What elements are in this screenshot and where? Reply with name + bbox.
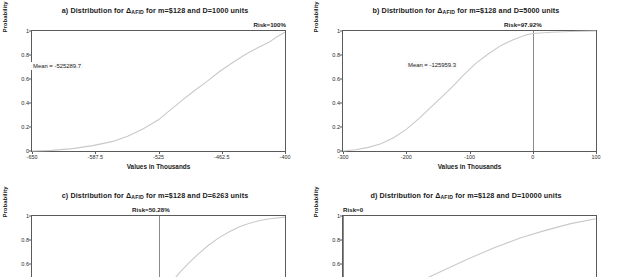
panel-a-title: a) Distribution for ΔAFID for m=$128 and… [0,6,310,15]
panel-b-xtick-0: -300 [338,154,349,160]
delta-subscript: AFID [443,9,456,15]
panel-c-title: c) Distribution for ΔAFID for m=$128 and… [0,191,310,200]
panel-a-ylabel: Probability [2,0,8,52]
delta-subscript: AFID [131,9,144,15]
panel-d-ytick-5: 1 [337,213,340,219]
panel-a-ytick-1: 0.2 [21,124,29,130]
panel-d-curve [343,216,596,277]
panel-d-title-prefix: d) Distribution for [370,191,435,200]
panel-b-title-prefix: b) Distribution for [373,6,438,15]
figure-panel-grid: a) Distribution for ΔAFID for m=$128 and… [0,0,621,277]
panel-d-plot-area: 1 0.8 0.6 0.4 [342,215,597,277]
panel-a-xtick-4: -400 [280,154,291,160]
panel-c-title-prefix: c) Distribution for [62,191,126,200]
panel-a-xtick-2: -525 [153,154,164,160]
chart-panel-c: c) Distribution for ΔAFID for m=$128 and… [0,185,310,277]
panel-b-xtick-1: -200 [401,154,412,160]
panel-a-xtick-3: -462.5 [214,154,229,160]
panel-b-xtick-4: 100 [592,154,601,160]
panel-d-risk-label: Risk=0 [343,206,363,213]
panel-b-ytick-4: 0.8 [332,52,340,58]
delta-symbol: Δ [437,6,442,15]
panel-c-title-suffix: for m=$128 and D=6263 units [144,191,248,200]
panel-b-xtick-3: 0 [531,154,534,160]
panel-d-title-suffix: for m=$128 and D=10000 units [453,191,561,200]
panel-c-plot-area: 1 0.8 0.6 0.4 [31,215,286,277]
panel-b-ytick-2: 0.4 [332,100,340,106]
panel-a-ytick-3: 0.6 [21,76,29,82]
panel-d-title: d) Distribution for ΔAFID for m=$128 and… [311,191,621,200]
panel-d-ytick-4: 0.8 [332,237,340,243]
panel-c-ylabel: Probability [2,167,8,237]
panel-a-ytick-4: 0.8 [21,52,29,58]
panel-b-plot-area: 0 0.2 0.4 0.6 0.8 1 -300 -200 -100 0 100 [342,30,597,152]
panel-b-ylabel: Probability [313,0,319,52]
panel-b-ytick-1: 0.2 [332,124,340,130]
panel-d-ytick-3: 0.6 [332,261,340,267]
panel-a-xtick-1: -587.5 [88,154,103,160]
panel-a-xtick-0: -650 [27,154,38,160]
panel-a-risk-label: Risk=100% [253,21,286,28]
panel-a-xlabel: Values in Thousands [31,163,286,170]
panel-a-curve [32,31,285,151]
panel-c-ytick-4: 0.8 [21,237,29,243]
panel-c-ytick-5: 1 [26,213,29,219]
panel-b-title-suffix: for m=$128 and D=5000 units [455,6,559,15]
panel-b-xlabel: Values in Thousands [342,163,597,170]
panel-b-ytick-3: 0.6 [332,76,340,82]
panel-a-title-prefix: a) Distribution for [62,6,126,15]
panel-d-ylabel: Probability [313,167,319,237]
panel-b-risk-label: Risk=97.92% [504,21,542,28]
panel-b-ytick-5: 1 [337,28,340,34]
panel-b-curve [343,31,596,151]
panel-b-mean-label: Mean = -125959.3 [406,61,458,69]
panel-a-title-suffix: for m=$128 and D=1000 units [144,6,248,15]
chart-panel-d: d) Distribution for ΔAFID for m=$128 and… [311,185,621,277]
panel-b-xtick-2: -100 [464,154,475,160]
panel-c-risk-label: Risk=50.28% [132,206,170,213]
panel-a-mean-label: Mean = -525289.7 [31,62,83,70]
panel-c-ytick-3: 0.6 [21,261,29,267]
panel-b-title: b) Distribution for ΔAFID for m=$128 and… [311,6,621,15]
panel-a-plot-area: 0 0.2 0.4 0.6 0.8 1 -650 -587.5 -525 -46… [31,30,286,152]
chart-panel-a: a) Distribution for ΔAFID for m=$128 and… [0,0,310,185]
chart-panel-b: b) Distribution for ΔAFID for m=$128 and… [311,0,621,185]
panel-a-ytick-2: 0.4 [21,100,29,106]
panel-c-curve [32,216,285,277]
delta-subscript: AFID [440,194,453,200]
delta-subscript: AFID [131,194,144,200]
panel-a-ytick-5: 1 [26,28,29,34]
